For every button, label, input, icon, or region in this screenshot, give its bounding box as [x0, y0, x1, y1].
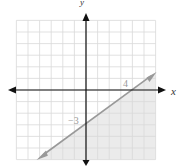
x-intercept-label: 4: [123, 78, 128, 89]
x-axis-label: x: [170, 85, 176, 97]
y-axis-arrow-down-icon: [83, 160, 90, 166]
graph: x y 4 −3: [0, 0, 180, 166]
x-axis-arrow-left-icon: [8, 87, 16, 94]
y-axis-arrow-up-icon: [83, 13, 90, 21]
x-axis-arrow-right-icon: [158, 87, 166, 94]
shaded-region: [41, 74, 160, 160]
y-intercept-label: −3: [68, 115, 79, 126]
y-axis-label: y: [79, 0, 84, 7]
